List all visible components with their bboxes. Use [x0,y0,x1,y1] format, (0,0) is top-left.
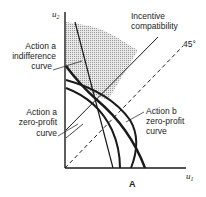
45-degree-label: 45° [183,39,196,49]
shaded-region [66,22,138,100]
incentive-diagram: u2 u1 A Incentive compatibility 45° Acti… [0,0,206,197]
zpb-label-1: Action b [146,106,177,116]
diagram-title: A [129,179,136,189]
y-axis-label: u2 [52,9,60,20]
zpa-label-3: curve [36,128,57,138]
zpa-label-2: zero-profit [19,117,58,127]
zpa-leader [58,124,78,136]
zpb-label-3: curve [146,126,167,136]
x-axis-label: u1 [186,171,194,182]
indiff-label-2: indifference [12,51,56,61]
incentive-label-1: Incentive [131,11,165,21]
zpb-label-2: zero-profit [146,116,185,126]
indiff-label-3: curve [31,61,52,71]
incentive-label-2: compatibility [131,21,179,31]
action-a-zero-profit-curve [66,88,120,168]
indiff-label-1: Action a [25,41,56,51]
zpa-label-1: Action a [26,107,57,117]
